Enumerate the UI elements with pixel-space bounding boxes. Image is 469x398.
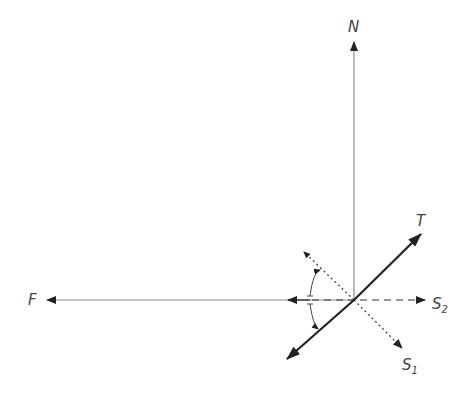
force-diagram: N F S2 S1 T [0,0,469,398]
label-s1: S [402,356,412,374]
label-n: N [348,18,359,36]
label-s1-sub: 1 [412,365,418,376]
svg-text:S2: S2 [432,295,448,315]
label-t: T [416,212,427,230]
vector-t: T [287,212,427,359]
label-s2-sub: 2 [442,304,448,315]
label-f: F [28,291,37,309]
label-s2: S [432,295,442,313]
svg-text:S1: S1 [402,356,418,376]
vector-s1: S1 [304,252,418,376]
vector-n: N [348,18,359,300]
vector-s2: S2 [312,295,448,315]
